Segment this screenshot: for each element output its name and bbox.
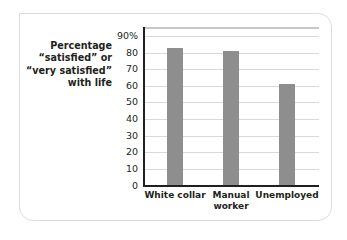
x-tick-label-line: Manual — [199, 190, 263, 201]
y-tick-label: 70 — [98, 64, 138, 74]
y-tick-label: 50 — [98, 97, 138, 107]
plot-area — [143, 27, 319, 186]
gridline — [143, 36, 319, 37]
y-tick-label: 80 — [98, 48, 138, 58]
plot-top-border — [143, 27, 319, 29]
bar — [279, 84, 295, 185]
x-tick-label: White collar — [143, 190, 207, 201]
y-tick-label: 40 — [98, 114, 138, 124]
x-axis-line — [143, 185, 319, 187]
y-tick-label: 60 — [98, 81, 138, 91]
bar — [167, 48, 183, 186]
x-tick-label-line: Unemployed — [255, 190, 319, 201]
y-tick-label: 10 — [98, 164, 138, 174]
x-tick-label: Manualworker — [199, 190, 263, 212]
x-tick-label-line: worker — [199, 201, 263, 212]
y-tick-label: 0 — [98, 181, 138, 191]
y-axis-line — [143, 27, 145, 186]
x-tick-label-line: White collar — [143, 190, 207, 201]
bar — [223, 51, 239, 186]
y-tick-label: 30 — [98, 131, 138, 141]
y-tick-label: 20 — [98, 147, 138, 157]
y-tick-label: 90% — [98, 31, 138, 41]
x-tick-label: Unemployed — [255, 190, 319, 201]
